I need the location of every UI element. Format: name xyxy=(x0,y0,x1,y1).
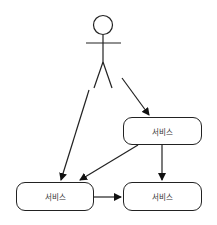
service-node-bottom-right: 서비스 xyxy=(123,182,202,211)
edge-actor-to-service-bottom-left xyxy=(61,90,89,180)
service-node-bottom-left: 서비스 xyxy=(16,182,94,211)
edge-service-top-to-service-bottom-left xyxy=(80,145,138,180)
service-node-label: 서비스 xyxy=(152,126,173,137)
service-node-top: 서비스 xyxy=(123,117,202,145)
actor-left-leg xyxy=(94,62,103,88)
actor-head xyxy=(94,16,113,35)
actor-stick-figure xyxy=(86,16,121,89)
service-node-label: 서비스 xyxy=(152,191,173,202)
service-node-label: 서비스 xyxy=(45,191,66,202)
actor-right-leg xyxy=(103,62,112,88)
edge-actor-to-service-top xyxy=(122,78,149,115)
